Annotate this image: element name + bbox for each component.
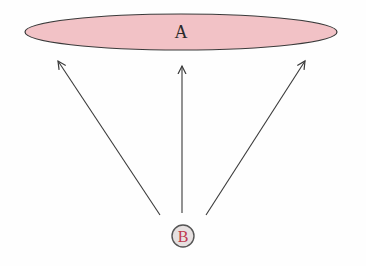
arrow-left <box>58 61 160 215</box>
node-a-label: A <box>175 22 188 42</box>
node-a: A <box>25 14 337 50</box>
node-b: B <box>172 225 194 247</box>
diagram-canvas: A B <box>0 0 366 266</box>
arrow-right <box>206 61 305 215</box>
edges <box>58 61 305 215</box>
node-b-label: B <box>178 228 189 245</box>
